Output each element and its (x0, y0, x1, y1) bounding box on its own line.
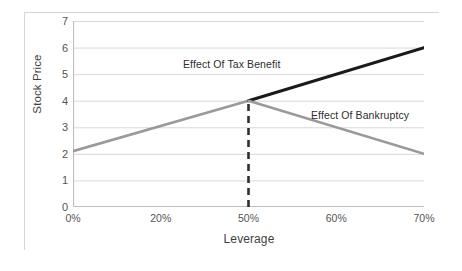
x-axis-tick-labels: 0%20%50%60%70% (73, 213, 424, 229)
y-tick-label-4: 4 (46, 95, 68, 106)
series-line (73, 101, 249, 151)
stock-price-vs-leverage-chart: Stock Price 01234567 0%20%50%60%70% Effe… (0, 0, 462, 271)
y-tick-label-6: 6 (46, 42, 68, 53)
annotation-bankruptcy: Effect Of Bankruptcy (311, 109, 409, 121)
x-axis-title: Leverage (73, 232, 425, 246)
y-axis-tick-labels: 01234567 (44, 21, 68, 207)
x-tick-label-70%: 70% (413, 213, 434, 224)
y-tick-label-5: 5 (46, 69, 68, 80)
y-tick-label-0: 0 (46, 202, 68, 213)
y-tick-label-3: 3 (46, 122, 68, 133)
series-line (249, 48, 425, 101)
annotation-tax-benefit: Effect Of Tax Benefit (183, 58, 280, 70)
y-tick-label-2: 2 (46, 148, 68, 159)
y-tick-label-1: 1 (46, 175, 68, 186)
y-axis-title: Stock Price (31, 29, 43, 139)
x-tick-label-50%: 50% (238, 213, 259, 224)
y-tick-label-7: 7 (46, 16, 68, 27)
x-tick-label-60%: 60% (326, 213, 347, 224)
x-tick-label-20%: 20% (150, 213, 171, 224)
x-tick-label-0%: 0% (65, 213, 80, 224)
